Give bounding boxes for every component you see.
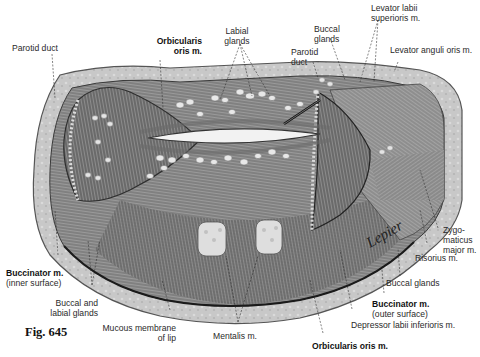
- label-depressor-labii-inferioris: Depressor labii inferioris m.: [351, 320, 455, 330]
- label-orbicularis-oris-bottom: Orbicularis oris m.: [312, 341, 388, 351]
- label-orbicularis-oris-top: Orbicularis oris m.: [118, 36, 202, 56]
- label-buccal-labial-glands: Buccal and labial glands: [36, 298, 98, 318]
- label-levator-labii-superioris: Levator labii superioris m.: [371, 3, 420, 23]
- label-buccal-glands-right: Buccal glands: [386, 278, 440, 288]
- label-buccinator-outer: Buccinator m. (outer surface): [372, 299, 429, 319]
- label-zygomaticus-major: Zygo- maticus major m.: [443, 225, 476, 255]
- label-levator-anguli-oris: Levator anguli oris m.: [390, 45, 472, 55]
- figure-number: Fig. 645: [25, 325, 67, 340]
- label-risorius: Risorius m.: [415, 253, 458, 263]
- label-mentalis: Mentalis m.: [213, 331, 257, 341]
- label-buccal-glands-top: Buccal glands: [314, 24, 340, 44]
- label-buccinator-inner: Buccinator m. (inner surface): [6, 268, 63, 288]
- label-parotid-duct-left: Parotid duct: [12, 43, 58, 53]
- label-labial-glands: Labial glands: [212, 26, 262, 46]
- label-mucous-membrane: Mucous membrane of lip: [86, 323, 176, 343]
- label-parotid-duct-right: Parotid duct: [291, 47, 318, 67]
